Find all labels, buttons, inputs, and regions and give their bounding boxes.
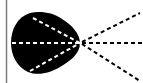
lower-ray-outer xyxy=(82,44,140,81)
ray-diagram xyxy=(0,0,143,83)
outer-rays xyxy=(82,13,142,81)
upper-ray-outer xyxy=(82,13,140,42)
